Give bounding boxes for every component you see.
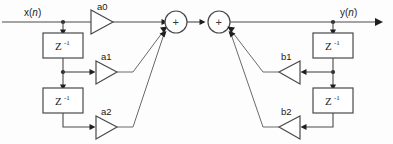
delay-fb2-to-b2-wire <box>303 113 333 127</box>
delay-fb1-output-branch <box>301 58 337 91</box>
gain-b2-shape <box>279 116 300 139</box>
input-label: x(n) <box>24 7 41 18</box>
gain-a0-label: a0 <box>97 1 108 12</box>
delay1-output-branch <box>60 58 96 91</box>
delay2-output-branch <box>63 113 96 130</box>
arrow-into-a2 <box>90 124 96 130</box>
delay-fb-2-label: Z <box>325 95 332 107</box>
arrow-into-a1 <box>90 69 96 75</box>
delay-fb-1-box <box>313 33 353 58</box>
delay2-to-a2-wire <box>63 113 93 127</box>
output-arrow-head <box>375 18 383 26</box>
feedback-sum-wires <box>228 27 280 128</box>
gain-a0-shape <box>91 10 113 34</box>
a2-to-adder-wire <box>117 34 164 127</box>
delay-fb-1-label: Z <box>325 40 332 52</box>
delay-fb-2-exponent: -1 <box>334 94 340 102</box>
signal-flow-canvas: x(n) Z -1 Z -1 a0 <box>0 0 393 144</box>
gain-a2-shape <box>96 116 117 139</box>
b2-to-adder-wire <box>231 34 279 127</box>
adder-right: + <box>208 11 230 33</box>
delay-fb-2-box <box>313 88 353 113</box>
adder-left-symbol: + <box>173 16 179 28</box>
output-label: y(n) <box>340 7 357 18</box>
input-branch <box>2 20 166 36</box>
feedforward-sum-wires <box>117 27 168 128</box>
delay-block-fb-1: Z -1 <box>313 33 353 58</box>
delay-block-ff-1: Z -1 <box>43 33 83 58</box>
adder-right-symbol: + <box>216 16 222 28</box>
delay-fb-1-exponent: -1 <box>334 39 340 47</box>
delay-block-ff-2: Z -1 <box>43 88 83 113</box>
iir-filter-diagram: x(n) Z -1 Z -1 a0 <box>0 0 393 144</box>
delay-fb2-output-branch <box>301 113 334 130</box>
gain-a1-label: a1 <box>101 51 112 62</box>
b1-to-adder-wire <box>230 29 279 72</box>
output-branch <box>230 18 383 36</box>
delay-ff-1-label: Z <box>55 40 62 52</box>
delay-block-fb-2: Z -1 <box>313 88 353 113</box>
gain-triangle-b1: b1 <box>279 51 300 84</box>
delay-ff-1-box <box>43 33 83 58</box>
gain-triangle-b2: b2 <box>279 106 300 139</box>
gain-a1-shape <box>96 61 117 84</box>
gain-a2-label: a2 <box>101 106 112 117</box>
gain-triangle-a2: a2 <box>96 106 117 139</box>
gain-b1-label: b1 <box>281 51 292 62</box>
delay-ff-2-label: Z <box>55 95 62 107</box>
gain-triangle-a1: a1 <box>96 51 117 84</box>
gain-b1-shape <box>279 61 300 84</box>
gain-b2-label: b2 <box>281 106 292 117</box>
gain-triangle-a0: a0 <box>91 1 113 34</box>
arrow-into-b1 <box>301 69 307 75</box>
delay-ff-1-exponent: -1 <box>64 39 70 47</box>
inter-adder-wire-group <box>187 19 206 25</box>
delay-ff-2-exponent: -1 <box>64 94 70 102</box>
adder-left: + <box>165 11 187 33</box>
arrow-into-b2 <box>301 124 307 130</box>
delay-ff-2-box <box>43 88 83 113</box>
arrow-into-adder-right <box>200 19 206 25</box>
a1-to-adder-wire <box>117 29 165 72</box>
